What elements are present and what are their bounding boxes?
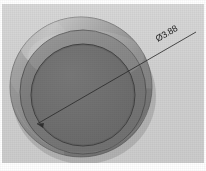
margin-left: [0, 0, 2, 171]
margin-right: [204, 0, 206, 171]
inner-face: [31, 44, 135, 146]
figure-screenshot: Ø3.88: [0, 0, 206, 171]
drawing-canvas: Ø3.88: [0, 0, 206, 171]
margin-top: [0, 0, 206, 4]
margin-bottom: [0, 163, 206, 171]
disc-diameter-drawing: Ø3.88: [0, 0, 206, 171]
